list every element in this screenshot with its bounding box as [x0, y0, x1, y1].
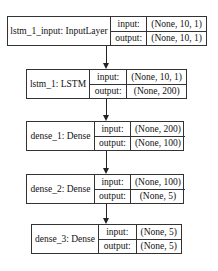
node-label: lstm_1_input: InputLayer: [8, 17, 111, 45]
node-lstm-1-input: lstm_1_input: InputLayer input: output: …: [7, 16, 207, 46]
node-label: dense_1: Dense: [27, 122, 95, 150]
input-shape: (None, 200): [131, 122, 185, 137]
node-label: lstm_1: LSTM: [27, 70, 90, 98]
input-label: input:: [111, 17, 146, 32]
node-label: dense_3: Dense: [32, 225, 99, 253]
edge-1: [106, 99, 107, 115]
input-shape: (None, 10, 1): [127, 70, 186, 85]
output-shape: (None, 5): [137, 240, 181, 254]
output-shape: (None, 5): [131, 190, 185, 204]
output-shape: (None, 200): [127, 85, 186, 99]
output-label: output:: [111, 32, 146, 46]
edge-3: [106, 204, 107, 218]
node-dense-1: dense_1: Dense input: output: (None, 200…: [26, 121, 184, 151]
output-label: output:: [95, 190, 130, 204]
output-label: output:: [99, 240, 136, 254]
output-label: output:: [95, 137, 130, 151]
node-dense-2: dense_2: Dense input: output: (None, 100…: [26, 174, 184, 204]
input-shape: (None, 10, 1): [147, 17, 206, 32]
input-shape: (None, 100): [131, 175, 185, 190]
node-label: dense_2: Dense: [27, 175, 95, 203]
output-shape: (None, 100): [131, 137, 185, 151]
node-lstm-1: lstm_1: LSTM input: output: (None, 10, 1…: [26, 69, 187, 99]
input-label: input:: [95, 175, 130, 190]
node-dense-3: dense_3: Dense input: output: (None, 5) …: [31, 224, 182, 254]
input-label: input:: [90, 70, 126, 85]
input-label: input:: [99, 225, 136, 240]
edge-2: [106, 151, 107, 168]
edge-0: [106, 46, 107, 63]
output-label: output:: [90, 85, 126, 99]
output-shape: (None, 10, 1): [147, 32, 206, 46]
input-shape: (None, 5): [137, 225, 181, 240]
input-label: input:: [95, 122, 130, 137]
